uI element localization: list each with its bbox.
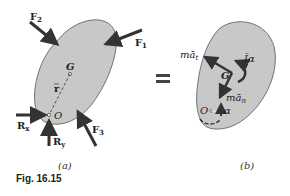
panel-a-label: (a): [58, 160, 72, 171]
pivot-o-a: [47, 113, 50, 116]
force-f2-arrow: [30, 22, 57, 44]
label-g-b: G: [221, 70, 230, 81]
equals-sign: [156, 74, 170, 83]
label-o-b: O: [200, 105, 208, 116]
force-f3-label: F3: [92, 124, 104, 137]
vector-mat-label: māt: [180, 49, 198, 62]
label-r: r: [54, 83, 60, 94]
figure-caption: Fig. 16.15: [16, 173, 62, 184]
reaction-rx-label: Rx: [17, 120, 30, 133]
alpha-label: α: [224, 105, 231, 116]
label-g-a: G: [66, 61, 75, 72]
rigid-body-b: [197, 22, 276, 129]
panel-a: F2 F1 G r O Rx Ry F3: [16, 11, 147, 149]
panel-b: māt mān G Īα O α: [180, 22, 275, 129]
moment-ialpha-label: Īα: [243, 53, 255, 64]
panel-b-label: (b): [240, 160, 254, 171]
reaction-ry-label: Ry: [53, 136, 66, 149]
force-f1-label: F1: [135, 37, 147, 50]
pivot-o-b: [210, 110, 213, 113]
label-o-a: O: [54, 110, 62, 121]
